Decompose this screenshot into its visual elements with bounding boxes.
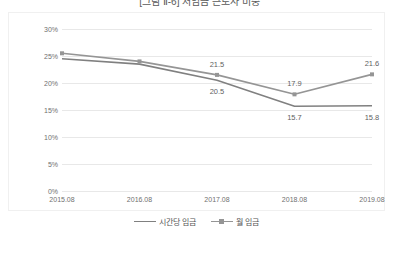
- series-marker: [215, 73, 219, 77]
- chart-legend: 시간당 임금월 임금: [8, 216, 385, 227]
- chart-title: [그림 Ⅱ-6] 저임금 근로자 비중: [0, 0, 399, 8]
- data-point-label: 15.8: [352, 113, 392, 122]
- plot-area: 20.515.715.821.517.921.6: [62, 29, 372, 191]
- y-axis-tick-label: 20%: [30, 80, 58, 87]
- x-axis-tick-label: 2018.08: [265, 196, 325, 203]
- data-point-label: 15.7: [275, 113, 315, 122]
- y-axis-tick-label: 15%: [30, 107, 58, 114]
- x-axis-tick-label: 2019.08: [342, 196, 399, 203]
- y-axis-tick-label: 10%: [30, 134, 58, 141]
- y-axis-tick-label: 0%: [30, 188, 58, 195]
- y-axis-tick-label: 5%: [30, 161, 58, 168]
- legend-entry: 시간당 임금: [134, 216, 196, 227]
- series-marker: [293, 92, 297, 96]
- y-axis-tick-label: 25%: [30, 53, 58, 60]
- legend-swatch: [211, 218, 233, 226]
- x-axis-tick-label: 2015.08: [32, 196, 92, 203]
- series-marker: [138, 59, 142, 63]
- data-point-label: 20.5: [197, 87, 237, 96]
- series-marker: [60, 51, 64, 55]
- legend-label: 월 임금: [236, 216, 259, 227]
- y-axis: 0%5%10%15%20%25%30%: [28, 29, 58, 191]
- series-layer: [62, 29, 372, 191]
- legend-label: 시간당 임금: [159, 216, 196, 227]
- y-axis-tick-label: 30%: [30, 26, 58, 33]
- data-point-label: 21.5: [197, 60, 237, 69]
- legend-swatch: [134, 218, 156, 226]
- legend-line-icon: [134, 221, 156, 223]
- legend-entry: 월 임금: [211, 216, 259, 227]
- chart-figure: [그림 Ⅱ-6] 저임금 근로자 비중 0%5%10%15%20%25%30% …: [0, 0, 399, 259]
- gridline: [62, 191, 372, 192]
- x-axis: 2015.082016.082017.082018.082019.08: [62, 196, 372, 208]
- data-point-label: 17.9: [275, 79, 315, 88]
- legend-marker-icon: [219, 219, 224, 224]
- x-axis-tick-label: 2016.08: [110, 196, 170, 203]
- series-marker: [370, 72, 374, 76]
- data-point-label: 21.6: [352, 59, 392, 68]
- x-axis-tick-label: 2017.08: [187, 196, 247, 203]
